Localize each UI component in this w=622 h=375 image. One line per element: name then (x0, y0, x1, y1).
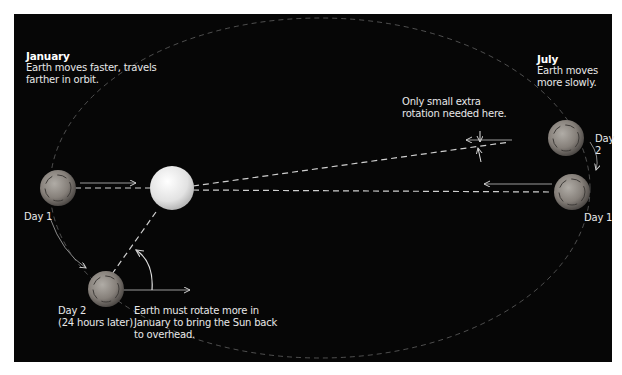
july-desc-line1: Earth moves (537, 65, 598, 77)
jan-note-line1: Earth must rotate more in (134, 305, 277, 317)
jul-small-rotation-arrow-up-icon (478, 148, 481, 162)
sun-jul-day2-line (193, 142, 510, 186)
jan-day1-label: Day 1 (24, 211, 52, 223)
sun-sphere-icon (150, 166, 194, 210)
jul-day1-label: Day 1 (584, 212, 612, 224)
january-desc-line2: farther in orbit. (26, 74, 157, 86)
jan-day2-line1: Day 2 (58, 305, 133, 317)
earth-jul-day2-globe-icon (548, 120, 584, 156)
jan-orbit-motion-arrow-icon (50, 218, 86, 268)
july-note-line2: rotation needed here. (402, 108, 507, 120)
january-heading: January (26, 50, 157, 62)
july-rotation-note: Only small extra rotation needed here. (402, 96, 507, 120)
earth-jan-day2-globe-icon (88, 271, 124, 307)
jan-day2-line2: (24 hours later) (58, 317, 133, 329)
july-heading: July (537, 53, 598, 65)
january-desc-line1: Earth moves faster, travels (26, 62, 157, 74)
jul-day2-label: Day 2 (595, 133, 622, 157)
july-caption: July Earth moves more slowly. (537, 53, 598, 89)
jan-note-line2: January to bring the Sun back (134, 317, 277, 329)
july-desc-line2: more slowly. (537, 77, 598, 89)
sun-jul-day1-line (193, 190, 552, 192)
july-note-line1: Only small extra (402, 96, 507, 108)
jan-day2-sun-line (112, 212, 156, 274)
jan-note-line3: to overhead. (134, 329, 277, 341)
earth-jul-day1-globe-icon (554, 174, 590, 210)
jan-day2-label: Day 2 (24 hours later) (58, 305, 133, 329)
earth-jan-day1-globe-icon (40, 170, 76, 206)
january-caption: January Earth moves faster, travels fart… (26, 50, 157, 86)
jan-rotation-arc-icon (136, 250, 152, 290)
january-rotation-note: Earth must rotate more in January to bri… (134, 305, 277, 341)
